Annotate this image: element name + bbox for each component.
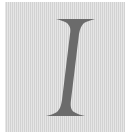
letter-tile: I — [5, 2, 125, 132]
italic-letter-i-glyph: I — [5, 2, 125, 132]
letter-i-shape — [46, 19, 95, 116]
